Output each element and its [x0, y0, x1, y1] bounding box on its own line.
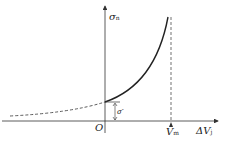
asymptote-label: Vm [166, 127, 179, 137]
offset-label: σ- [117, 107, 124, 116]
diagram-canvas [0, 0, 228, 153]
x-axis-label: ΔVj [196, 126, 212, 136]
y-axis-label: σn [109, 12, 120, 22]
solid-curve [105, 17, 168, 102]
dashed-curve [10, 102, 105, 116]
origin-label: O [95, 123, 103, 133]
